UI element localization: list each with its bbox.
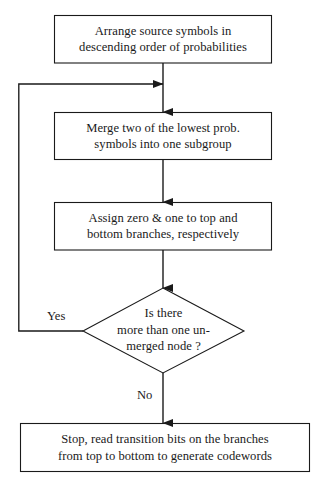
flowchart-canvas: Arrange source symbols in descending ord… [0,0,329,496]
edge-label-yes: Yes [47,309,65,323]
edge-label-no: No [137,388,152,402]
process-box-merge [55,113,272,160]
process-box-stop [21,424,310,472]
decision-diamond-unmerged-node [83,288,244,373]
flowchart-graphics [0,0,329,496]
process-box-assign [55,203,272,251]
process-box-arrange [55,16,272,64]
